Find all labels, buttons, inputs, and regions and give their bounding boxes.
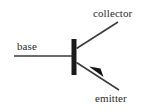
emitter-label: emitter bbox=[95, 93, 127, 104]
collector-lead-line bbox=[77, 22, 119, 49]
transistor-symbol-diagram: collector base emitter bbox=[0, 0, 147, 111]
collector-label: collector bbox=[93, 8, 132, 19]
base-vertical-bar bbox=[72, 39, 77, 75]
base-label: base bbox=[17, 41, 37, 52]
emitter-lead-line bbox=[77, 63, 120, 91]
